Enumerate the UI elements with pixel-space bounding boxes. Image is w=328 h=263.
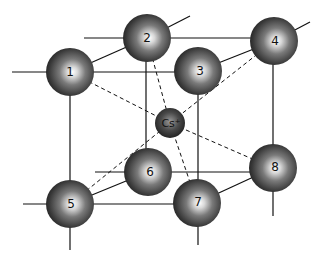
cs-ion-label: Cs⁺ <box>161 117 180 130</box>
atom-6: 6 <box>124 148 172 196</box>
atom-8: 8 <box>249 144 297 192</box>
atom-3: 3 <box>174 47 222 95</box>
cscl-unit-cell-diagram: Cs⁺ 2 4 1 3 6 8 5 7 <box>0 0 328 263</box>
cs-ion: Cs⁺ <box>155 108 185 138</box>
atom-8-label: 8 <box>271 160 279 174</box>
atom-5: 5 <box>46 180 94 228</box>
atom-2: 2 <box>123 14 171 62</box>
atom-2-label: 2 <box>143 31 151 45</box>
atom-7-label: 7 <box>194 195 202 209</box>
atom-5-label: 5 <box>67 197 75 211</box>
diagram-canvas: Cs⁺ 2 4 1 3 6 8 5 7 <box>0 0 328 263</box>
atom-1-label: 1 <box>66 65 74 79</box>
atom-4: 4 <box>250 17 298 65</box>
atom-6-label: 6 <box>146 165 154 179</box>
atom-1: 1 <box>46 48 94 96</box>
atom-4-label: 4 <box>271 34 279 48</box>
atom-7: 7 <box>173 179 221 227</box>
atom-3-label: 3 <box>196 64 204 78</box>
